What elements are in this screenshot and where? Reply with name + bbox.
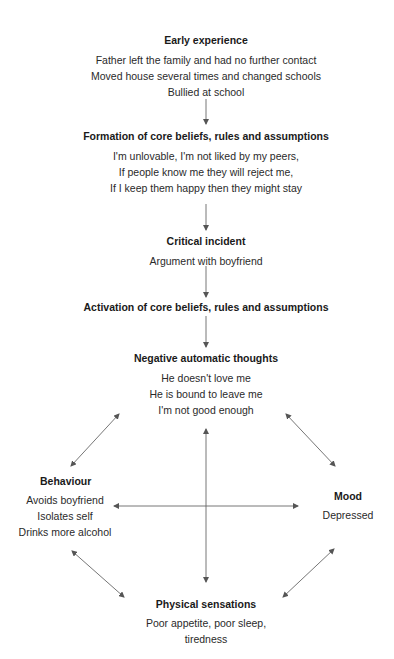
node-line: I'm unlovable, I'm not liked by my peers…	[0, 148, 394, 164]
node-line: tiredness	[0, 631, 394, 647]
node-title: Behaviour	[14, 474, 116, 488]
node-critical-incident: Critical incident Argument with boyfrien…	[0, 234, 394, 269]
node-line: Bullied at school	[0, 84, 394, 100]
node-line: Depressed	[318, 507, 378, 523]
arrow-thoughts-mood	[286, 414, 335, 466]
node-title: Activation of core beliefs, rules and as…	[0, 300, 394, 314]
node-line: He doesn't love me	[0, 370, 394, 386]
node-line: Argument with boyfriend	[0, 253, 394, 269]
node-line: I'm not good enough	[0, 402, 394, 418]
node-title: Critical incident	[0, 234, 394, 248]
node-core-beliefs: Formation of core beliefs, rules and ass…	[0, 129, 394, 196]
node-title: Mood	[318, 489, 378, 503]
node-line: Isolates self	[14, 508, 116, 524]
node-line: Avoids boyfriend	[14, 492, 116, 508]
node-line: If people know me they will reject me,	[0, 164, 394, 180]
node-line: Father left the family and had no furthe…	[0, 52, 394, 68]
node-line: He is bound to leave me	[0, 386, 394, 402]
node-line: Drinks more alcohol	[14, 524, 116, 540]
node-title: Physical sensations	[0, 597, 394, 611]
node-line: Poor appetite, poor sleep,	[0, 615, 394, 631]
node-title: Early experience	[0, 33, 394, 47]
arrow-behaviour-physical	[72, 551, 124, 597]
node-line: Moved house several times and changed sc…	[0, 68, 394, 84]
node-title: Negative automatic thoughts	[0, 351, 394, 365]
node-line: If I keep them happy then they might sta…	[0, 180, 394, 196]
node-behaviour: Behaviour Avoids boyfriend Isolates self…	[14, 474, 116, 540]
node-activation: Activation of core beliefs, rules and as…	[0, 300, 394, 314]
arrow-mood-physical	[283, 549, 334, 597]
arrow-thoughts-behaviour	[71, 414, 119, 466]
node-early-experience: Early experience Father left the family …	[0, 33, 394, 100]
node-negative-thoughts: Negative automatic thoughts He doesn't l…	[0, 351, 394, 418]
node-physical-sensations: Physical sensations Poor appetite, poor …	[0, 597, 394, 647]
node-mood: Mood Depressed	[318, 489, 378, 523]
node-title: Formation of core beliefs, rules and ass…	[0, 129, 394, 143]
